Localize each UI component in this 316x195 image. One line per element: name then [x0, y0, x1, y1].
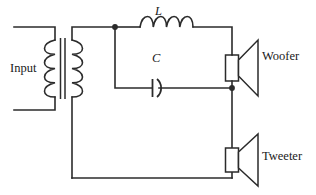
inductor-branch — [115, 17, 232, 56]
inductor-label: L — [155, 5, 162, 18]
junction-dot-right — [229, 85, 235, 91]
capacitor-label: C — [152, 52, 160, 65]
inductor-coil — [140, 17, 193, 28]
transformer-primary-winding — [45, 40, 56, 97]
circuit-schematic-svg — [0, 0, 316, 195]
woofer-driver-body — [226, 55, 239, 81]
circuit-diagram: Input L C Woofer Tweeter — [0, 0, 316, 195]
transformer-secondary-top-lead — [72, 27, 115, 40]
input-label: Input — [10, 62, 36, 75]
woofer-label: Woofer — [262, 50, 299, 63]
capacitor-left-lead — [115, 27, 152, 88]
transformer-primary-bottom-lead — [14, 97, 55, 110]
woofer-horn — [239, 40, 259, 96]
transformer-secondary-winding — [72, 40, 83, 97]
capacitor-branch — [115, 27, 232, 97]
transformer-primary-top-lead — [14, 27, 55, 40]
inductor-right-lead — [193, 27, 232, 55]
tweeter-driver-body — [226, 148, 239, 172]
transformer — [14, 27, 115, 178]
tweeter-label: Tweeter — [262, 150, 302, 163]
tweeter-horn — [239, 134, 259, 186]
junction-dot-left — [112, 24, 118, 30]
